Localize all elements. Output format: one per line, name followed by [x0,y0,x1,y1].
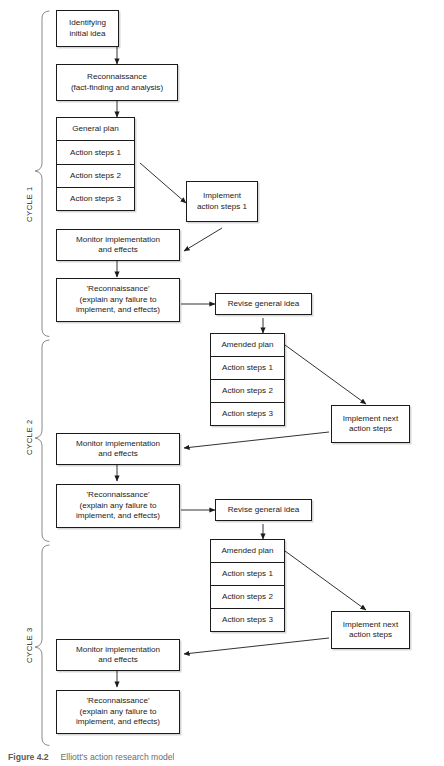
node-monitor-implementation-3: Monitor implementation and effects [56,639,180,671]
node-monitor-implementation-2: Monitor implementation and effects [56,433,180,465]
brace-cycle-3 [35,545,49,746]
node-reconnaissance-explain-2: 'Reconnaissance' (explain any failure to… [56,484,180,528]
brace-cycle-2 [35,340,49,542]
node-implement-next-action-steps-2: Implement next action steps [331,405,410,443]
amended-plan-2-step-3: Action steps 3 [211,403,284,425]
general-plan-step-3: Action steps 3 [57,188,134,210]
amended-plan-3-step-3: Action steps 3 [211,609,284,631]
figure-caption: Figure 4.2Elliott's action research mode… [8,752,174,762]
node-monitor-implementation-1: Monitor implementation and effects [56,229,180,261]
node-general-plan-stack: General plan Action steps 1 Action steps… [56,117,135,211]
node-reconnaissance-explain-3: 'Reconnaissance' (explain any failure to… [56,690,180,734]
cycle-label-2: CYCLE 2 [25,419,34,455]
node-revise-general-idea-2: Revise general idea [215,499,312,521]
node-implement-next-action-steps-3: Implement next action steps [331,611,410,649]
node-amended-plan-stack-2: Amended plan Action steps 1 Action steps… [210,333,285,426]
amended-plan-2-title: Amended plan [211,334,284,357]
node-reconnaissance-explain-1: 'Reconnaissance' (explain any failure to… [56,278,180,322]
general-plan-step-1: Action steps 1 [57,141,134,164]
node-reconnaissance-fact-finding: Reconnaissance (fact-finding and analysi… [56,64,178,101]
general-plan-title: General plan [57,118,134,141]
figure-canvas: CYCLE 1 Identifying initial idea Reconna… [0,0,444,766]
general-plan-step-2: Action steps 2 [57,165,134,188]
arrow-implnext1-to-monitor2 [184,432,329,448]
cycle-label-3: CYCLE 3 [25,627,34,663]
node-identifying-initial-idea: Identifying initial idea [56,10,119,47]
figure-caption-label: Figure 4.2 [8,752,49,762]
arrow-implnext2-to-monitor3 [184,638,329,654]
amended-plan-3-title: Amended plan [211,540,284,563]
node-revise-general-idea-1: Revise general idea [215,293,312,315]
node-amended-plan-stack-3: Amended plan Action steps 1 Action steps… [210,539,285,632]
arrow-plan-to-implement [140,163,186,203]
arrow-amended1-to-implnext1 [285,345,366,404]
amended-plan-3-step-2: Action steps 2 [211,586,284,609]
arrow-amended2-to-implnext2 [285,551,366,610]
brace-cycle-1 [35,11,49,337]
amended-plan-3-step-1: Action steps 1 [211,563,284,586]
cycle-label-1: CYCLE 1 [25,186,34,222]
node-implement-action-steps-1: Implement action steps 1 [186,181,258,222]
figure-caption-text: Elliott's action research model [61,752,175,762]
arrow-implement-to-monitor [184,228,222,251]
amended-plan-2-step-2: Action steps 2 [211,380,284,403]
amended-plan-2-step-1: Action steps 1 [211,357,284,380]
